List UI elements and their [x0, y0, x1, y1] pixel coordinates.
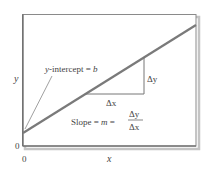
y-axis-label: y [13, 73, 19, 84]
slope-label: Slope = m = [71, 117, 115, 127]
slope-label-prefix: Slope = [71, 117, 101, 127]
x-axis-label: x [106, 153, 112, 164]
intercept-label: y-intercept = b [44, 64, 98, 74]
intercept-label-b: b [93, 64, 98, 74]
slope-intercept-diagram: y x 0 0 y-intercept = b Δy Δx Slope = m … [0, 0, 213, 172]
slope-label-eq: = [108, 117, 115, 127]
delta-x-label: Δx [106, 98, 117, 108]
slope-fraction-numerator: Δy [129, 109, 140, 119]
slope-fraction-denominator: Δx [129, 122, 140, 132]
x-origin-label: 0 [22, 154, 27, 164]
delta-y-label: Δy [147, 74, 158, 84]
y-origin-label: 0 [15, 141, 20, 151]
intercept-label-text: -intercept = [49, 64, 93, 74]
